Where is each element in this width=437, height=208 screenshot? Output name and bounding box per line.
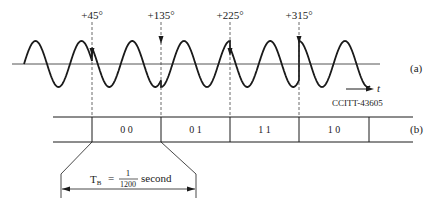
panel-a-label: (a) xyxy=(410,62,423,75)
dibit-value: 0 0 xyxy=(120,124,133,135)
arrow-down-icon xyxy=(159,36,164,44)
bit-period-dimension: TB = 1 1200 second xyxy=(61,142,196,198)
arrow-right-icon xyxy=(366,87,374,92)
dibit-cells: 0 00 11 11 0 xyxy=(92,117,369,142)
arrow-left-icon xyxy=(62,187,70,192)
dibit-value: 1 0 xyxy=(328,124,341,135)
panel-b-dibits: 0 00 11 11 0 (b) xyxy=(53,117,423,142)
phase-change-markers xyxy=(90,22,302,117)
tb-symbol: TB xyxy=(90,173,102,187)
tb-denominator: 1200 xyxy=(120,180,136,189)
arrow-right-icon xyxy=(187,187,195,192)
phase-labels: +45°+135°+225°+315° xyxy=(81,9,312,21)
dibit-value: 1 1 xyxy=(258,124,271,135)
tb-equals: = xyxy=(108,172,114,184)
panel-b-label: (b) xyxy=(410,123,423,136)
source-label: CCITT-43605 xyxy=(332,98,383,108)
tb-unit: second xyxy=(141,172,172,184)
phase-label: +225° xyxy=(216,9,243,21)
phase-label: +315° xyxy=(285,9,312,21)
tb-numerator: 1 xyxy=(126,168,131,178)
dpsk-diagram: +45°+135°+225°+315° (a) t CCITT-43605 0 … xyxy=(0,0,437,208)
dibit-value: 0 1 xyxy=(189,124,202,135)
phase-label: +45° xyxy=(81,9,103,21)
time-axis-label: t xyxy=(377,82,381,94)
panel-a-waveform: +45°+135°+225°+315° (a) t CCITT-43605 xyxy=(12,9,423,117)
phase-label: +135° xyxy=(147,9,174,21)
